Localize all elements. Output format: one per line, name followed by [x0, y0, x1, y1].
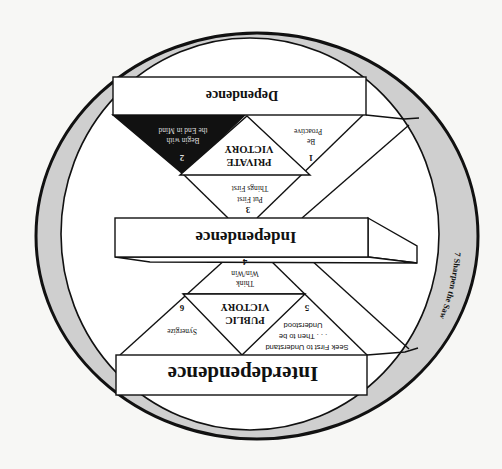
habit-2-line1: Begin with	[166, 136, 199, 145]
habit-6-number: 6	[179, 303, 184, 313]
dependence-label: Dependence	[206, 88, 278, 103]
habit-3-line1: Put First	[236, 195, 263, 204]
habit-1-number: 1	[308, 153, 313, 163]
private-victory-line1: PRIVATE	[226, 157, 271, 168]
habit-5-line3: Understood	[284, 321, 323, 330]
habit-4-line1: Think	[236, 279, 254, 288]
habit-4-number: 4	[242, 257, 247, 267]
public-victory-line1: PUBLIC	[225, 315, 265, 326]
private-victory-line2: VICTORY	[224, 144, 273, 155]
habit-4-line2: Win/Win	[231, 269, 259, 278]
habit-2-number: 2	[179, 153, 184, 163]
habit-5-line2: . . . Then to be	[279, 332, 327, 341]
habit-1-line1: Be	[306, 137, 315, 146]
habit-2-line2: the End in Mind	[158, 126, 207, 135]
habit-3-line2: Things First	[231, 184, 268, 193]
habit-1-line2: Proactive	[293, 127, 322, 136]
public-victory-line2: VICTORY	[220, 302, 269, 313]
habit-5-number: 5	[304, 303, 309, 313]
maturity-continuum-diagram: Dependence Independence Interdependence …	[0, 0, 502, 469]
habit-6-line1: Synergize	[166, 327, 197, 336]
habit-5-line1: Seek First to Understand	[266, 343, 349, 352]
habit-3-number: 3	[245, 205, 250, 215]
interdependence-label: Interdependence	[168, 362, 319, 386]
independence-label: Independence	[195, 228, 297, 247]
